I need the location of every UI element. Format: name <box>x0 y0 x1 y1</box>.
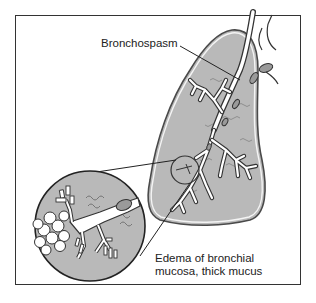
figure: Bronchospasm Edema of bronchial mucosa, … <box>0 0 316 303</box>
lung-lobe <box>148 30 265 225</box>
label-edema: Edema of bronchial mucosa, thick mucus <box>155 252 262 278</box>
label-bronchospasm: Bronchospasm <box>101 37 178 50</box>
label-edema-line2: mucosa, thick mucus <box>155 265 262 278</box>
label-edema-line1: Edema of bronchial <box>155 252 262 265</box>
magnified-bronchiole-inset <box>33 171 145 281</box>
